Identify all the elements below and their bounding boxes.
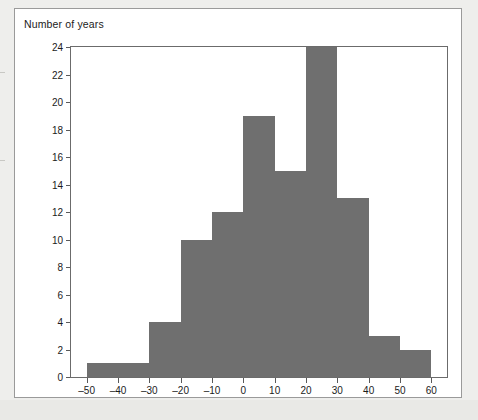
x-axis-tick-label: 60 <box>426 385 437 396</box>
x-axis-tick <box>431 378 432 383</box>
bar <box>275 171 306 377</box>
x-axis-tick <box>149 378 150 383</box>
bars-layer <box>71 47 447 377</box>
y-axis-tick-label: 10 <box>52 234 63 245</box>
bar <box>337 198 368 377</box>
y-axis-tick-label: 2 <box>57 344 63 355</box>
bar <box>369 336 400 377</box>
plot-frame <box>70 46 448 378</box>
figure-card: Number of years 024681012141618202224 –5… <box>14 8 462 398</box>
x-axis-tick <box>306 378 307 383</box>
x-axis-host: –50–40–30–20–100102030405060 <box>70 378 448 408</box>
plot-area <box>71 47 447 377</box>
bar <box>243 116 274 377</box>
x-axis-tick <box>337 378 338 383</box>
x-axis-tick <box>275 378 276 383</box>
page-margin-mark <box>0 72 5 73</box>
y-axis-tick-label: 24 <box>52 42 63 53</box>
x-axis-tick-label: –10 <box>204 385 221 396</box>
y-axis-tick-label: 4 <box>57 317 63 328</box>
x-axis-tick-label: 30 <box>332 385 343 396</box>
y-axis-tick-label: 14 <box>52 179 63 190</box>
y-axis-tick-label: 22 <box>52 69 63 80</box>
y-axis-tick-label: 18 <box>52 124 63 135</box>
y-axis-tick-label: 20 <box>52 97 63 108</box>
x-axis-tick <box>181 378 182 383</box>
y-axis-tick-label: 16 <box>52 152 63 163</box>
x-axis-tick-label: 10 <box>269 385 280 396</box>
bar <box>149 322 180 377</box>
x-axis-tick-label: 50 <box>394 385 405 396</box>
bar <box>181 240 212 378</box>
x-axis-tick-label: –50 <box>78 385 95 396</box>
x-axis-tick-label: –40 <box>110 385 127 396</box>
x-axis-tick-label: 0 <box>241 385 247 396</box>
x-axis-tick <box>243 378 244 383</box>
x-axis-tick-label: 40 <box>363 385 374 396</box>
bar <box>87 363 118 377</box>
y-axis-tick-label: 0 <box>57 372 63 383</box>
bar <box>212 212 243 377</box>
x-axis: –50–40–30–20–100102030405060 <box>70 378 448 408</box>
y-axis-tick-label: 8 <box>57 262 63 273</box>
x-axis-tick <box>400 378 401 383</box>
x-axis-tick-label: –30 <box>141 385 158 396</box>
x-axis-tick <box>212 378 213 383</box>
bar <box>118 363 149 377</box>
x-axis-tick-label: 20 <box>300 385 311 396</box>
x-axis-tick <box>87 378 88 383</box>
y-axis-tick-label: 12 <box>52 207 63 218</box>
y-axis-tick-label: 6 <box>57 289 63 300</box>
page-margin-mark <box>0 160 5 161</box>
y-axis: 024681012141618202224 <box>15 9 71 409</box>
bar <box>306 47 337 377</box>
x-axis-tick-label: –20 <box>172 385 189 396</box>
x-axis-tick <box>369 378 370 383</box>
x-axis-tick <box>118 378 119 383</box>
bar <box>400 350 431 378</box>
